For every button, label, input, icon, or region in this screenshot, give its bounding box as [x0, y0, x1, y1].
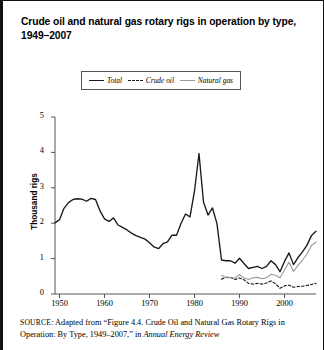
y-axis-ticks — [51, 117, 55, 294]
source-note: SOURCE: Adapted from “Figure 4.4. Crude … — [20, 317, 316, 340]
x-tick-label: 1990 — [225, 299, 255, 308]
series-line-total — [55, 153, 316, 271]
x-tick-label: 2000 — [270, 299, 300, 308]
x-tick-label: 1950 — [45, 299, 75, 308]
x-axis-ticks — [60, 294, 285, 298]
series-line-natural-gas — [222, 242, 317, 280]
line-chart-plot — [3, 1, 324, 350]
x-tick-label: 1980 — [180, 299, 210, 308]
x-tick-label: 1960 — [90, 299, 120, 308]
y-tick-label: 0 — [28, 288, 44, 297]
y-tick-label: 1 — [28, 253, 44, 262]
y-tick-label: 5 — [28, 111, 44, 120]
y-tick-label: 3 — [28, 182, 44, 191]
figure-container: Crude oil and natural gas rotary rigs in… — [0, 0, 324, 350]
y-tick-label: 2 — [28, 217, 44, 226]
data-series-group — [55, 153, 316, 288]
y-tick-label: 4 — [28, 146, 44, 155]
source-publication: Annual Energy Review — [143, 330, 219, 339]
source-prefix: SOURCE — [20, 318, 51, 327]
x-tick-label: 1970 — [135, 299, 165, 308]
series-line-crude-oil — [222, 277, 317, 288]
